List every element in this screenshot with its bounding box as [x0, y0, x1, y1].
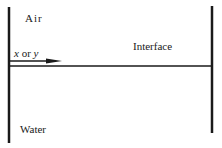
water-region-label: Water [20, 124, 46, 135]
interface-label: Interface [133, 41, 172, 52]
axis-conj: or [19, 47, 34, 59]
axis-label: x or y [14, 48, 38, 59]
axis-var-y: y [34, 47, 39, 59]
axis-arrow-icon [9, 59, 62, 64]
air-water-interface-diagram: Air x or y Interface Water [0, 0, 222, 148]
air-region-label: Air [25, 13, 43, 24]
